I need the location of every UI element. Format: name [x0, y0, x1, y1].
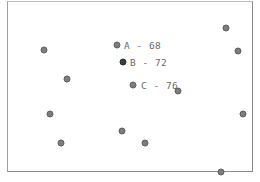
- point-marker: [142, 140, 149, 147]
- point-marker: [47, 111, 54, 118]
- point-a-label: A - 68: [124, 40, 161, 51]
- point-c-marker: [130, 82, 137, 89]
- point-marker: [119, 128, 126, 135]
- point-marker: [175, 88, 182, 95]
- point-marker: [64, 76, 71, 83]
- point-a-marker: [114, 42, 121, 49]
- point-b-label: B - 72: [130, 57, 167, 68]
- point-marker: [58, 140, 65, 147]
- point-marker: [41, 47, 48, 54]
- point-b-marker: [120, 59, 127, 66]
- point-marker: [223, 25, 230, 32]
- point-marker: [218, 169, 225, 176]
- point-c-label: C - 76: [141, 80, 178, 91]
- point-marker: [235, 48, 242, 55]
- point-marker: [240, 111, 247, 118]
